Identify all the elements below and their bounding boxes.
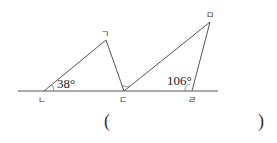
angle-label-n: 38° (57, 76, 75, 91)
segment-m-r (192, 22, 210, 91)
geometry-diagram: 38° 106° ㄱ ㄴ ㄷ ㄹ ㅁ (0, 0, 277, 143)
point-label-d: ㄷ (119, 95, 127, 105)
point-label-g: ㄱ (101, 29, 109, 39)
segment-g-d (106, 40, 124, 91)
angle-arc-n (52, 85, 54, 91)
point-label-n: ㄴ (38, 95, 46, 105)
point-label-r: ㄹ (188, 95, 196, 105)
point-label-m: ㅁ (206, 10, 214, 20)
answer-close-paren: ) (258, 111, 264, 132)
answer-open-paren: ( (104, 111, 110, 132)
angle-label-r: 106° (167, 73, 192, 88)
